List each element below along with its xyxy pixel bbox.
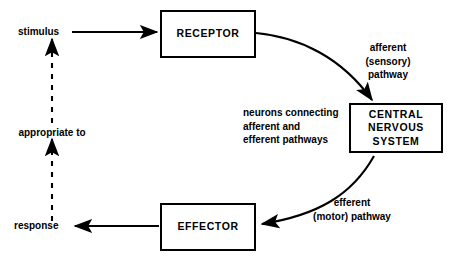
- node-receptor[interactable]: RECEPTOR: [160, 10, 256, 58]
- node-central-nervous-system-label: CENTRAL NERVOUS SYSTEM: [368, 108, 424, 149]
- label-neurons-connecting: neurons connecting afferent and efferent…: [243, 106, 339, 147]
- node-receptor-label: RECEPTOR: [177, 27, 240, 41]
- node-effector[interactable]: EFFECTOR: [160, 203, 256, 251]
- label-efferent-pathway: efferent (motor) pathway: [313, 196, 391, 223]
- label-stimulus: stimulus: [18, 25, 59, 39]
- label-afferent-pathway: afferent (sensory) pathway: [356, 41, 421, 82]
- label-appropriate-to: appropriate to: [18, 126, 85, 140]
- node-central-nervous-system[interactable]: CENTRAL NERVOUS SYSTEM: [349, 103, 443, 153]
- node-effector-label: EFFECTOR: [177, 220, 238, 234]
- reflex-arc-diagram: RECEPTOR CENTRAL NERVOUS SYSTEM EFFECTOR…: [0, 0, 453, 267]
- label-response: response: [14, 219, 58, 233]
